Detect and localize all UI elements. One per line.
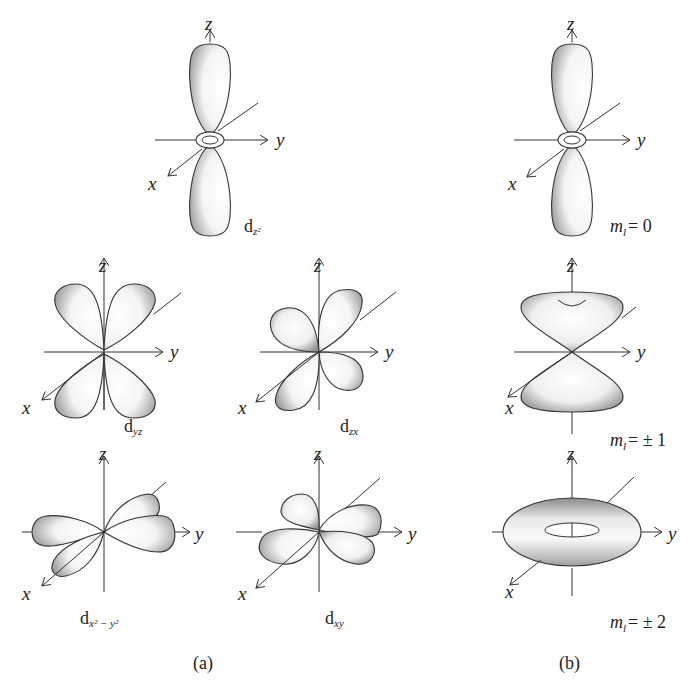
x-axis-back: [360, 292, 396, 320]
lobe-upper-left: [55, 284, 104, 350]
x-label: x: [147, 173, 157, 194]
x-axis-back: [346, 478, 380, 508]
ml0-orbital: z y x ml= 0: [507, 13, 652, 238]
x-label: x: [504, 581, 514, 602]
x-axis: [510, 560, 541, 585]
y-label: y: [635, 129, 646, 150]
torus-hole: [202, 136, 218, 144]
dzx-orbital: z y x dzx: [237, 255, 396, 437]
ml2-caption: ml= ± 2: [610, 612, 666, 634]
dz2-caption: dz²: [244, 216, 261, 237]
x-label: x: [237, 583, 247, 604]
z-label: z: [98, 255, 107, 276]
y-label: y: [666, 523, 677, 544]
y-label: y: [274, 129, 285, 150]
ml1-caption: ml= ± 1: [610, 430, 666, 452]
z-label: z: [313, 255, 322, 276]
y-label: y: [193, 523, 204, 544]
dxy-orbital: z y x dxy: [236, 443, 417, 629]
z-label: z: [566, 443, 575, 464]
torus-hole: [564, 136, 580, 144]
dyz-caption: dyz: [124, 416, 143, 437]
x-label: x: [237, 397, 247, 418]
lobe-lower-right: [104, 354, 155, 418]
z-label: z: [313, 443, 322, 464]
x-label: x: [21, 397, 31, 418]
lower-cone-lobe: [521, 352, 623, 412]
upper-cone-lobe: [521, 292, 623, 352]
y-label: y: [635, 341, 646, 362]
z-label: z: [98, 443, 107, 464]
x-axis-back: [154, 293, 181, 314]
y-label: y: [168, 341, 179, 362]
dyz-orbital: z y x dyz: [21, 255, 181, 437]
z-label: z: [566, 13, 575, 34]
lobe-upper-right: [104, 284, 155, 350]
upper-lobe: [190, 44, 231, 132]
panel-label-b: (b): [559, 653, 580, 674]
lobe-lower-left: [55, 354, 104, 418]
upper-lobe: [552, 44, 593, 132]
ml2-orbital: z y x ml= ± 2: [492, 443, 677, 634]
dx2y2-caption: dx² − y²: [80, 608, 119, 629]
ml0-caption: ml= 0: [610, 216, 652, 238]
lobe-back-left: [281, 494, 319, 530]
lobe-lower-back: [319, 352, 363, 390]
dxy-caption: dxy: [325, 608, 344, 629]
dx2y2-orbital: z y x dx² − y²: [21, 443, 204, 629]
orbital-diagram: z y x dz² z y x ml= 0 z y x dyz: [0, 0, 700, 690]
z-label: z: [204, 13, 213, 34]
dzx-caption: dzx: [340, 416, 358, 437]
ml1-orbital: z y x ml= ± 1: [504, 255, 666, 452]
lower-lobe: [190, 148, 231, 236]
x-label: x: [507, 173, 517, 194]
z-label: z: [566, 255, 575, 276]
y-label: y: [383, 341, 394, 362]
y-label: y: [406, 523, 417, 544]
panel-label-a: (a): [193, 653, 213, 674]
x-label: x: [504, 397, 514, 418]
x-axis-back: [150, 482, 166, 496]
lobe-upper-front: [318, 290, 362, 352]
dz2-orbital: z y x dz²: [147, 13, 285, 237]
lower-lobe: [552, 148, 593, 236]
lobe-upper-back: [270, 308, 319, 352]
x-label: x: [21, 583, 31, 604]
x-axis-back: [622, 307, 636, 318]
